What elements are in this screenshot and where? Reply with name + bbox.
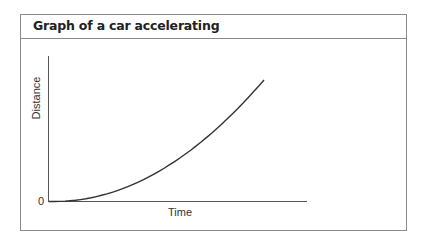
- y-axis-label: Distance: [30, 77, 42, 120]
- origin-label: 0: [38, 195, 44, 207]
- distance-time-chart: 0 Time Distance: [0, 0, 430, 242]
- distance-curve: [49, 80, 265, 202]
- x-axis-label: Time: [168, 206, 192, 218]
